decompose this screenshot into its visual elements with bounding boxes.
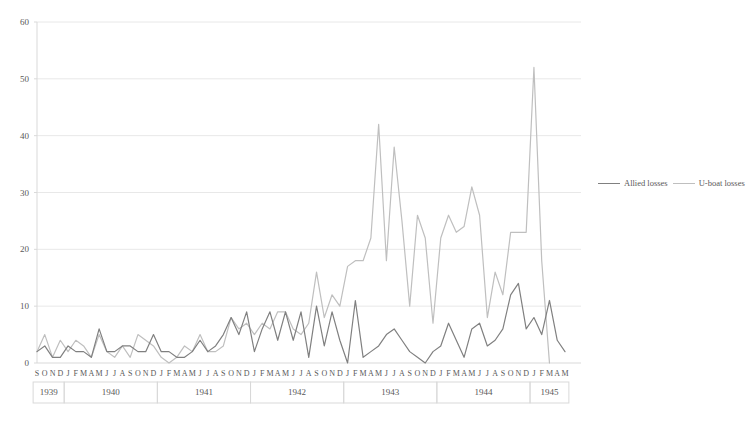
series-lines: [37, 67, 565, 363]
x-axis-month-label: M: [559, 369, 571, 379]
gridlines: [37, 22, 581, 306]
x-axis-year-label: 1942: [251, 386, 344, 398]
x-axis-year-label: 1939: [33, 386, 64, 398]
legend-label-allied-losses: Allied losses: [624, 178, 668, 188]
legend-swatch-u-boat-losses: [673, 183, 695, 184]
y-axis-tick-label: 60: [3, 17, 29, 27]
x-axis-year-label: 1944: [437, 386, 530, 398]
legend-item-allied-losses: Allied losses: [598, 178, 668, 188]
y-axis-tick-label: 30: [3, 188, 29, 198]
legend-label-u-boat-losses: U-boat losses: [699, 178, 745, 188]
y-axis-tick-label: 50: [3, 74, 29, 84]
series-line-u-boat-losses: [37, 67, 549, 363]
y-axis-tick-label: 10: [3, 301, 29, 311]
x-axis-year-label: 1941: [157, 386, 250, 398]
y-axis-tick-label: 0: [3, 358, 29, 368]
legend-item-u-boat-losses: U-boat losses: [673, 178, 745, 188]
chart-legend: Allied losses U-boat losses: [598, 178, 745, 188]
x-axis-year-label: 1940: [64, 386, 157, 398]
chart-container: 0102030405060 SONDJFMAMJJASONDJFMAMJJASO…: [0, 0, 753, 428]
x-axis-year-label: 1943: [344, 386, 437, 398]
line-chart-plot: [0, 0, 753, 428]
y-axis-tick-label: 40: [3, 131, 29, 141]
x-axis-year-label: 1945: [530, 386, 569, 398]
y-axis-tick-label: 20: [3, 244, 29, 254]
legend-swatch-allied-losses: [598, 183, 620, 184]
